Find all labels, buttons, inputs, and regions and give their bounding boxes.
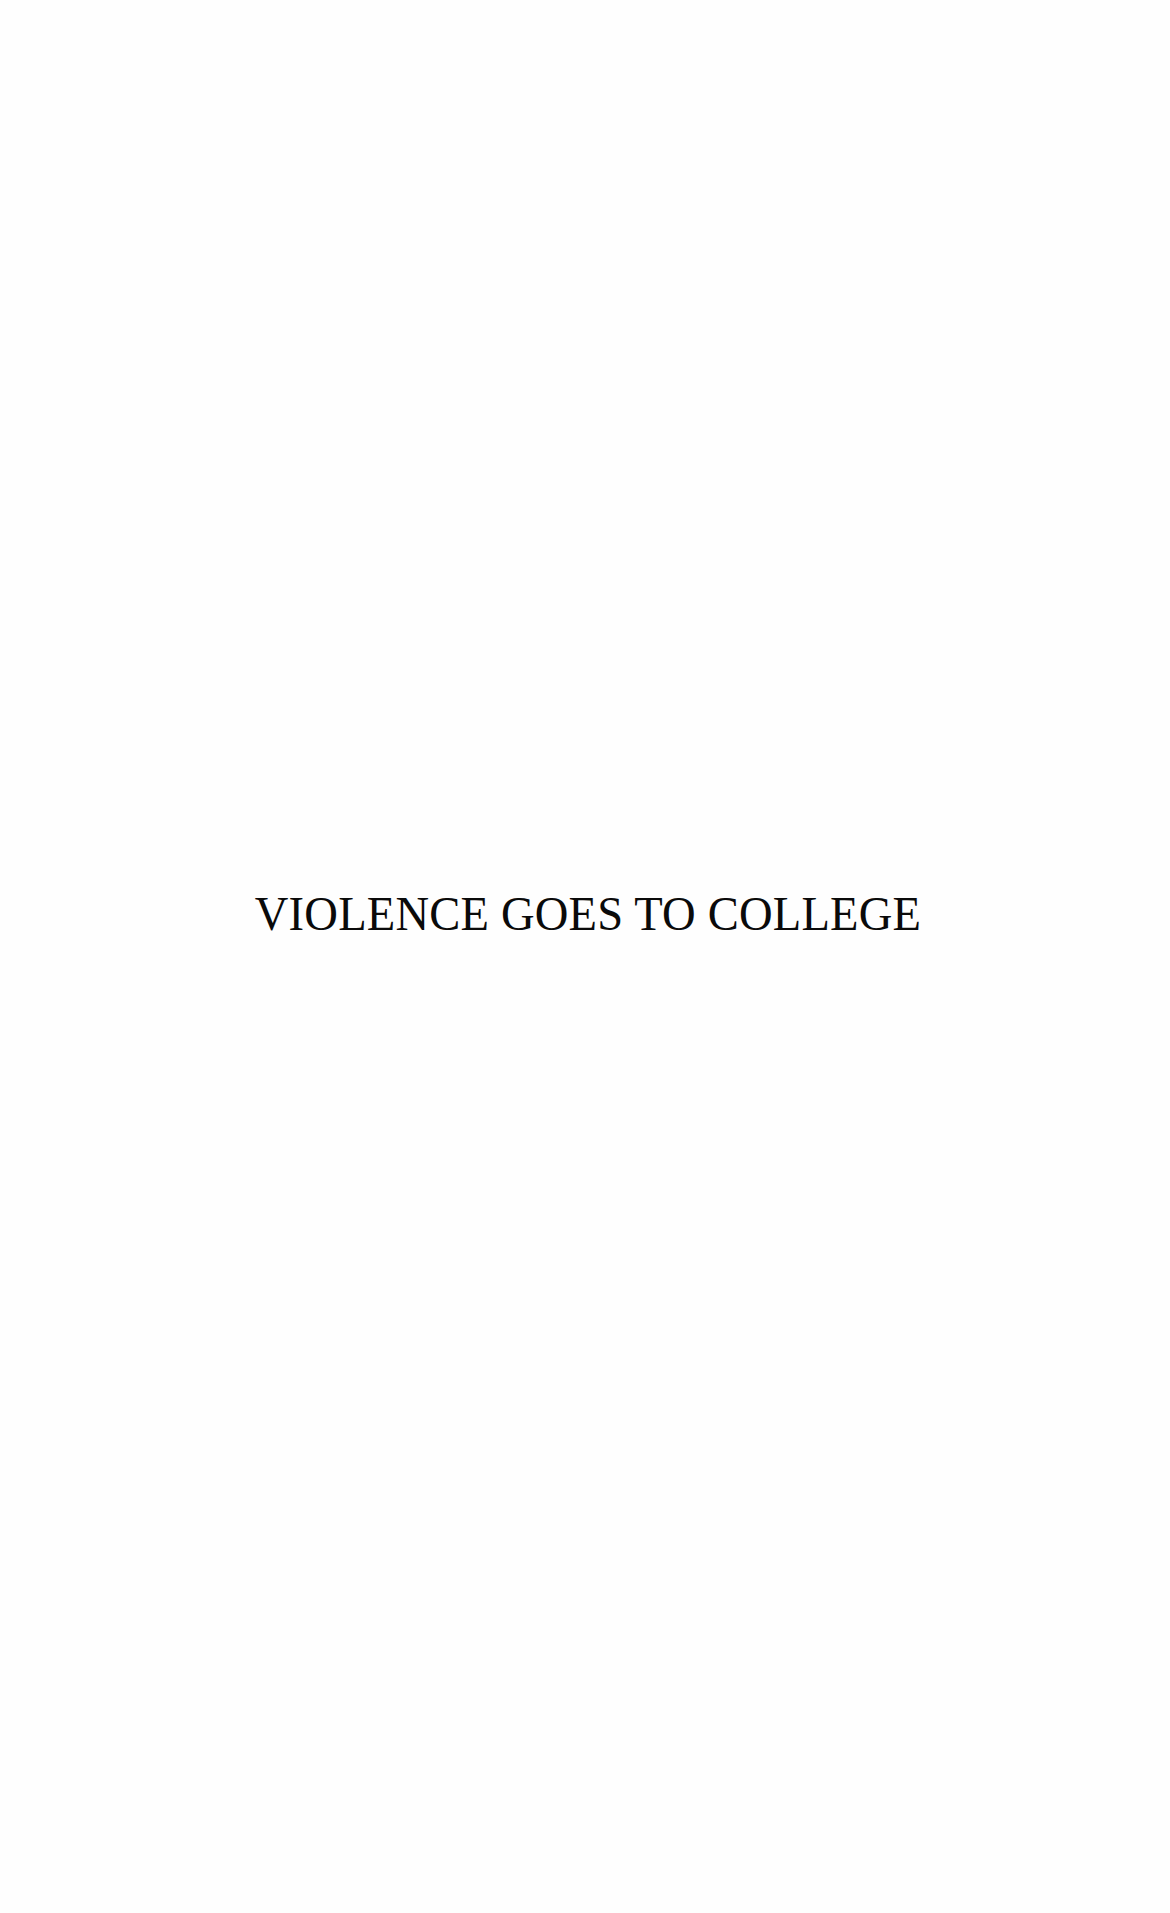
half-title: VIOLENCE GOES TO COLLEGE [18,884,1159,944]
book-page: VIOLENCE GOES TO COLLEGE [0,0,1170,1913]
